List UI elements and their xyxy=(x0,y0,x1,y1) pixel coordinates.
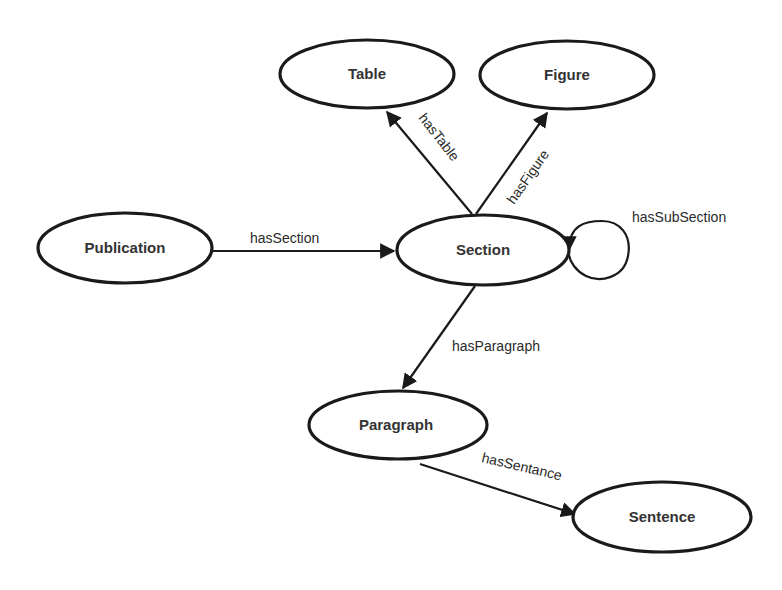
node-table: Table xyxy=(280,40,454,108)
edge-hasTable: hasTable xyxy=(387,110,472,214)
edge-label-hasSubSection: hasSubSection xyxy=(632,209,726,225)
node-label-publication: Publication xyxy=(85,239,166,256)
edge-hasSentance: hasSentance xyxy=(420,449,575,514)
edge-hasParagraph: hasParagraph xyxy=(403,286,540,388)
edge-label-hasFigure: hasFigure xyxy=(503,146,552,206)
node-figure: Figure xyxy=(480,41,654,109)
edge-hasSection: hasSection xyxy=(213,230,394,251)
ontology-diagram: hasTable hasFigure hasSection hasSubSect… xyxy=(0,0,782,590)
edge-label-hasSentance: hasSentance xyxy=(480,449,563,483)
edge-label-hasParagraph: hasParagraph xyxy=(452,338,540,354)
node-label-table: Table xyxy=(348,65,386,82)
self-loop xyxy=(569,221,629,279)
node-section: Section xyxy=(397,215,569,285)
node-label-sentence: Sentence xyxy=(629,508,696,525)
node-paragraph: Paragraph xyxy=(309,391,487,459)
node-sentence: Sentence xyxy=(573,482,751,552)
node-label-section: Section xyxy=(456,241,510,258)
edge-hasSubSection: hasSubSection xyxy=(569,209,726,279)
node-label-paragraph: Paragraph xyxy=(359,416,433,433)
node-publication: Publication xyxy=(38,213,212,283)
edge-label-hasSection: hasSection xyxy=(250,230,319,246)
edge-hasFigure: hasFigure xyxy=(476,113,552,214)
node-label-figure: Figure xyxy=(544,66,590,83)
edge-line xyxy=(403,286,475,388)
